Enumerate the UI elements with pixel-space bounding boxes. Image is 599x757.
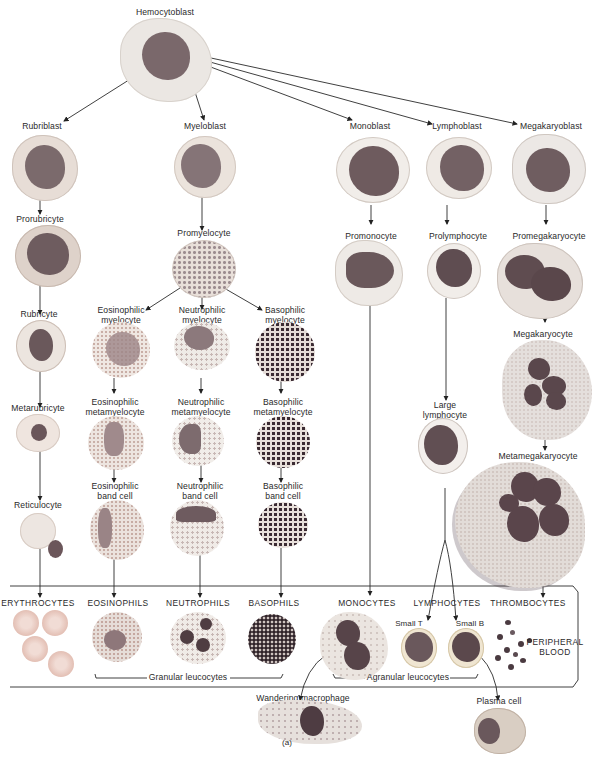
label-promegakaryocyte: Promegakaryocyte xyxy=(512,232,585,242)
cell-lymphoblast xyxy=(426,137,492,199)
platelet xyxy=(510,630,515,635)
cell-metarubricyte xyxy=(16,414,60,452)
label-line: band cell xyxy=(263,492,303,502)
nucleus xyxy=(344,642,370,670)
cell-rubriblast xyxy=(12,135,78,201)
platelet xyxy=(505,620,511,625)
platelet xyxy=(513,652,518,657)
nucleus xyxy=(507,506,539,542)
cell-neutrophil xyxy=(170,612,226,664)
nucleus xyxy=(546,392,566,410)
nucleus xyxy=(184,326,214,350)
cell-erythrocyte xyxy=(48,651,74,677)
label-myeloblast: Myeloblast xyxy=(184,122,226,132)
nucleus xyxy=(533,478,561,506)
cell-promonocyte xyxy=(335,240,403,306)
panel-label: (a) xyxy=(282,738,292,748)
label-peripheral-blood: PERIPHERAL BLOOD xyxy=(526,638,583,657)
nucleus-lobe xyxy=(180,630,194,644)
cell-eosinophil xyxy=(92,612,142,662)
cell-megakaryocyte xyxy=(502,340,592,440)
cell-erythrocyte xyxy=(42,610,68,636)
label-monocytes: MONOCYTES xyxy=(338,599,396,609)
label-promyelocyte: Promyelocyte xyxy=(177,229,230,239)
cell-eosinophilic-myelocyte xyxy=(92,322,150,378)
label-lymphoblast: Lymphoblast xyxy=(432,122,482,132)
label-prolymphocyte: Prolymphocyte xyxy=(429,232,487,242)
label-basophilic-metamyelocyte: Basophilic metamyelocyte xyxy=(253,398,312,417)
platelet xyxy=(508,664,514,670)
label-rubricyte: Rubricyte xyxy=(20,310,57,320)
nucleus xyxy=(31,424,47,441)
cell-basophilic-band-cell xyxy=(258,502,308,548)
cell-neutrophilic-myelocyte xyxy=(174,322,230,370)
nucleus xyxy=(98,508,112,548)
label-basophils: BASOPHILS xyxy=(248,599,299,609)
nucleus xyxy=(104,630,126,650)
nucleus xyxy=(349,146,399,196)
label-small-b: Small B xyxy=(456,619,484,629)
nucleus xyxy=(176,506,216,522)
nucleus xyxy=(300,706,324,736)
cell-erythrocyte xyxy=(13,610,39,636)
cell-erythrocyte xyxy=(22,636,48,662)
label-erythrocytes: ERYTHROCYTES xyxy=(1,599,75,609)
label-plasma-cell: Plasma cell xyxy=(476,697,521,707)
label-eosinophilic-band-cell: Eosinophilic band cell xyxy=(91,482,138,501)
label-basophilic-band-cell: Basophilic band cell xyxy=(263,482,303,501)
platelet xyxy=(520,658,526,663)
nucleus-lobe xyxy=(200,618,212,630)
nucleus xyxy=(524,384,542,406)
cell-neutrophilic-metamyelocyte xyxy=(172,416,224,466)
platelet xyxy=(518,641,524,647)
label-granular-leucocytes: Granular leucocytes xyxy=(149,673,227,683)
cell-megakaryoblast xyxy=(512,134,586,204)
nucleus xyxy=(440,145,484,191)
nucleus xyxy=(478,718,500,744)
cell-eosinophilic-metamyelocyte xyxy=(88,416,144,470)
label-eosinophilic-metamyelocyte: Eosinophilic metamyelocyte xyxy=(85,398,144,417)
nucleus xyxy=(104,422,124,456)
label-metamegakaryocyte: Metamegakaryocyte xyxy=(498,452,577,462)
nucleus xyxy=(526,148,570,192)
label-agranular-leucocytes: Agranular leucocytes xyxy=(367,673,449,683)
nucleus xyxy=(405,632,433,662)
platelet xyxy=(495,655,501,661)
nucleus xyxy=(106,332,140,366)
hematopoiesis-diagram: Hemocytoblast Rubriblast Myeloblast Mono… xyxy=(0,0,599,757)
cell-monoblast xyxy=(336,137,410,203)
cell-small-b-lymphocyte xyxy=(448,628,484,668)
label-metarubricyte: Metarubricyte xyxy=(11,404,64,414)
nucleus xyxy=(25,145,65,189)
nucleus xyxy=(29,329,53,361)
extruded-nucleus xyxy=(48,540,63,558)
cell-prolymphocyte xyxy=(427,243,481,299)
cell-rubricyte xyxy=(16,320,66,372)
label-neutrophilic-metamyelocyte: Neutrophilic metamyelocyte xyxy=(171,398,230,417)
label-line: BLOOD xyxy=(526,648,583,658)
label-lymphocytes: LYMPHOCYTES xyxy=(413,599,480,609)
cell-plasma-cell xyxy=(474,708,526,754)
cell-prorubricyte xyxy=(15,225,81,287)
cell-myeloblast xyxy=(174,136,236,198)
nucleus xyxy=(436,249,472,287)
label-neutrophilic-band-cell: Neutrophilic band cell xyxy=(177,482,224,501)
cell-neutrophilic-band-cell xyxy=(170,500,224,556)
label-monoblast: Monoblast xyxy=(350,122,391,132)
nucleus xyxy=(531,267,571,301)
cell-basophil xyxy=(248,614,296,664)
label-hemocytoblast: Hemocytoblast xyxy=(136,8,194,18)
nucleus xyxy=(424,425,458,465)
cell-eosinophilic-band-cell xyxy=(90,500,144,560)
label-reticulocyte: Reticulocyte xyxy=(14,501,62,511)
nucleus-lobe xyxy=(196,638,210,652)
label-rubriblast: Rubriblast xyxy=(22,122,62,132)
nucleus xyxy=(27,233,69,275)
label-prorubricyte: Prorubricyte xyxy=(16,215,64,225)
label-thrombocytes: THROMBOCYTES xyxy=(490,599,566,609)
nucleus xyxy=(346,252,394,288)
platelet xyxy=(504,647,510,653)
nucleus xyxy=(539,504,569,536)
platelet xyxy=(497,634,503,640)
cell-promyelocyte xyxy=(172,240,236,298)
